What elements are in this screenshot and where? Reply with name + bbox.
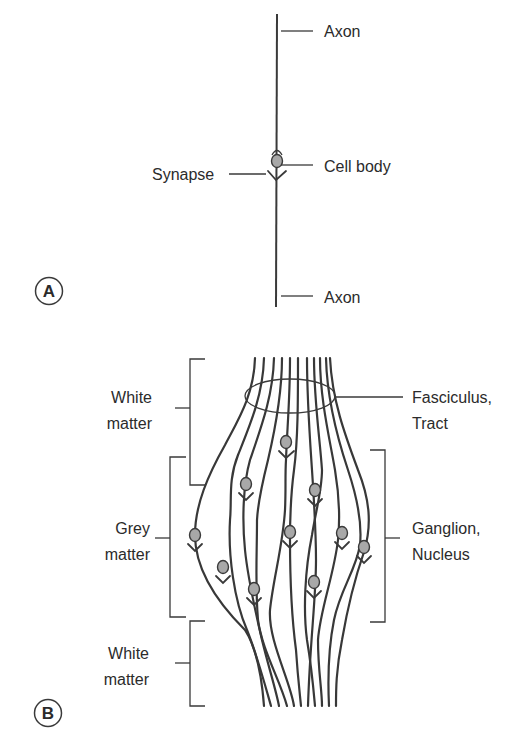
cell-body-icon (359, 541, 370, 554)
fasciculus-label-1: Fasciculus, (412, 389, 492, 406)
panel-a-badge-label: A (43, 282, 55, 301)
cell-body-icon (272, 155, 283, 168)
ganglion-bracket (370, 450, 385, 622)
grey-matter-label-2: matter (105, 546, 151, 563)
white-matter-top-label-1: White (111, 389, 152, 406)
cell-body-icon (281, 436, 292, 449)
cell-body-label: Cell body (324, 158, 391, 175)
synapse-icon (216, 576, 230, 583)
ganglion-label-1: Ganglion, (412, 520, 481, 537)
cell-body-icon (285, 526, 296, 539)
cell-body-icon (190, 529, 201, 542)
cell-body-icon (241, 478, 252, 491)
white-matter-bottom-label-2: matter (104, 671, 150, 688)
cell-body-icon (309, 576, 320, 589)
cell-body-icon (310, 484, 321, 497)
cell-body-icon (218, 561, 229, 574)
white-matter-bottom-label-1: White (108, 645, 149, 662)
panel-b-badge-label: B (42, 704, 54, 723)
axon-top-label: Axon (324, 23, 360, 40)
cell-body-icon (249, 583, 260, 596)
cell-body-icon (337, 527, 348, 540)
synapse-icon (239, 493, 253, 500)
neuron-diagram: Axon Cell body Synapse Axon A (0, 0, 509, 734)
panel-a: Axon Cell body Synapse Axon A (36, 14, 391, 307)
ganglion-label-2: Nucleus (412, 546, 470, 563)
panel-b: White matter Grey matter White matter Fa… (35, 358, 493, 727)
grey-matter-bracket (170, 457, 186, 617)
fasciculus-label-2: Tract (412, 415, 448, 432)
white-matter-bottom-bracket (190, 621, 205, 706)
white-matter-top-label-2: matter (107, 415, 153, 432)
synapse-icon (357, 556, 371, 563)
axon-bottom-label: Axon (324, 289, 360, 306)
white-matter-top-bracket (190, 359, 205, 485)
grey-matter-label-1: Grey (115, 520, 150, 537)
synapse-label: Synapse (152, 166, 214, 183)
